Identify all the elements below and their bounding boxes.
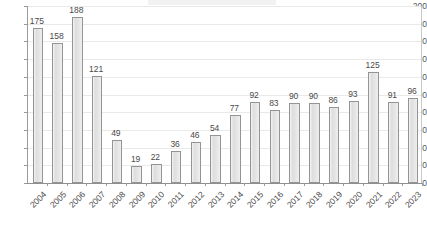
bar (408, 98, 418, 183)
x-axis-tick-mark (67, 183, 68, 186)
bar-value-label: 54 (199, 124, 231, 133)
bar (289, 103, 299, 183)
bar (151, 164, 161, 183)
bar (270, 110, 280, 183)
x-axis-tick-mark (165, 183, 166, 186)
x-axis-tick-mark (86, 183, 87, 186)
bar-value-label: 49 (100, 129, 132, 138)
bar (250, 102, 260, 183)
x-axis-tick-mark (304, 183, 305, 186)
x-axis-tick-label: 2005 (48, 190, 67, 209)
x-axis-tick-mark (323, 183, 324, 186)
bar (329, 107, 339, 183)
x-axis-tick-label: 2021 (364, 190, 383, 209)
bar (52, 43, 62, 183)
x-axis-tick-label: 2015 (246, 190, 265, 209)
bar (33, 28, 43, 183)
x-axis-tick-mark (264, 183, 265, 186)
bar-chart: 020406080100120140160180200 200420052006… (0, 0, 427, 229)
x-axis-tick-label: 2006 (68, 190, 87, 209)
bar (309, 103, 319, 183)
x-axis-tick-label: 2016 (265, 190, 284, 209)
x-axis-tick-mark (225, 183, 226, 186)
x-axis-tick-mark (106, 183, 107, 186)
x-axis-tick-label: 2007 (88, 190, 107, 209)
x-axis-tick-mark (205, 183, 206, 186)
bar-value-label: 96 (396, 87, 427, 96)
x-axis-tick-label: 2018 (305, 190, 324, 209)
x-axis-tick-label: 2012 (186, 190, 205, 209)
bar (210, 135, 220, 183)
bar-value-label: 121 (80, 65, 112, 74)
x-axis-tick-label: 2010 (147, 190, 166, 209)
x-axis-tick-label: 2017 (285, 190, 304, 209)
bar-value-label: 36 (159, 140, 191, 149)
x-axis-tick-mark (363, 183, 364, 186)
x-axis-tick-label: 2008 (107, 190, 126, 209)
gridline (28, 148, 421, 149)
x-axis-tick-mark (422, 183, 423, 186)
bar (368, 72, 378, 183)
bar (72, 17, 82, 183)
x-axis-tick-mark (343, 183, 344, 186)
scan-artifact (148, 0, 276, 5)
bar (171, 151, 181, 183)
gridline (28, 59, 421, 60)
x-axis-tick-label: 2023 (404, 190, 423, 209)
x-axis-tick-mark (185, 183, 186, 186)
x-axis-tick-label: 2014 (226, 190, 245, 209)
bar (230, 115, 240, 183)
bar-value-label: 22 (139, 153, 171, 162)
x-axis-tick-mark (244, 183, 245, 186)
bar-value-label: 188 (60, 6, 92, 15)
x-axis-tick-mark (284, 183, 285, 186)
bar (388, 102, 398, 183)
bar (191, 142, 201, 183)
x-axis-tick-label: 2022 (384, 190, 403, 209)
gridline (28, 77, 421, 78)
gridline (28, 165, 421, 166)
x-axis-tick-label: 2013 (206, 190, 225, 209)
bar (131, 166, 141, 183)
bar-value-label: 125 (357, 61, 389, 70)
x-axis-tick-label: 2009 (127, 190, 146, 209)
x-axis-tick-mark (126, 183, 127, 186)
gridline (28, 41, 421, 42)
bar (349, 101, 359, 183)
bar-value-label: 93 (337, 90, 369, 99)
gridline (28, 24, 421, 25)
x-axis-tick-mark (47, 183, 48, 186)
x-axis-tick-label: 2011 (166, 190, 185, 209)
x-axis-tick-label: 2004 (28, 190, 47, 209)
x-axis-tick-label: 2020 (344, 190, 363, 209)
x-axis-tick-mark (383, 183, 384, 186)
x-axis-tick-label: 2019 (325, 190, 344, 209)
x-axis-tick-mark (146, 183, 147, 186)
bar-value-label: 158 (41, 32, 73, 41)
x-axis-tick-mark (402, 183, 403, 186)
bar-value-label: 77 (218, 104, 250, 113)
bar-value-label: 175 (21, 17, 53, 26)
